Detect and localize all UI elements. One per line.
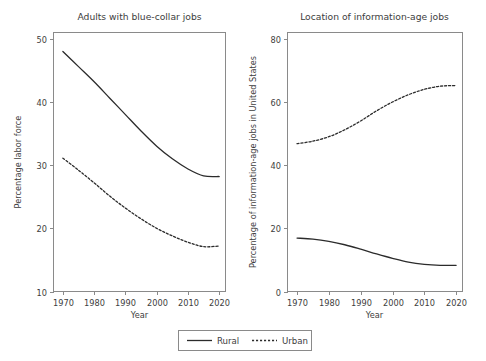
x-tick-label: 2000 xyxy=(147,298,168,308)
x-tick-label: 1970 xyxy=(53,298,74,308)
legend-label: Rural xyxy=(217,336,239,346)
y-axis-label: Percentage labor force xyxy=(13,116,23,209)
chart-figure: Adults with blue-collar jobs 1020304050 … xyxy=(0,0,486,361)
panel-title: Location of information-age jobs xyxy=(300,11,449,22)
y-tick-label: 30 xyxy=(37,161,47,171)
chart-legend: Rural Urban xyxy=(179,331,312,351)
x-tick-label: 1980 xyxy=(319,298,340,308)
y-tick-label: 40 xyxy=(271,161,281,171)
y-tick-label: 50 xyxy=(37,35,47,45)
x-tick-label: 2020 xyxy=(446,298,467,308)
x-tick-label: 1980 xyxy=(84,298,105,308)
y-tick-label: 20 xyxy=(271,224,281,234)
y-tick-label: 20 xyxy=(37,224,47,234)
x-tick-label: 1970 xyxy=(287,298,308,308)
x-tick-label: 1990 xyxy=(351,298,372,308)
x-tick-label: 2000 xyxy=(383,298,404,308)
y-tick-label: 40 xyxy=(37,98,47,108)
x-tick-label: 2020 xyxy=(209,298,230,308)
figure-container: Adults with blue-collar jobs 1020304050 … xyxy=(0,0,486,361)
y-tick-label: 0 xyxy=(276,288,281,298)
x-tick-label: 2010 xyxy=(178,298,199,308)
legend-label: Urban xyxy=(282,336,308,346)
x-tick-label: 2010 xyxy=(414,298,435,308)
y-tick-label: 80 xyxy=(271,35,281,45)
panel-title: Adults with blue-collar jobs xyxy=(77,11,201,22)
y-axis-label: Percentage of information-age jobs in Un… xyxy=(248,56,258,268)
x-axis-label: Year xyxy=(130,310,149,320)
x-tick-label: 1990 xyxy=(115,298,136,308)
x-axis-label: Year xyxy=(365,310,384,320)
y-tick-label: 60 xyxy=(271,98,281,108)
y-tick-label: 10 xyxy=(37,288,47,298)
